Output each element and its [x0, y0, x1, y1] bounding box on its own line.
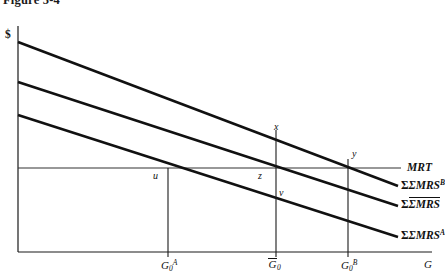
xtick-g0-bar-base: G — [268, 258, 277, 270]
point-label-v: v — [279, 187, 283, 198]
curve-label-a-sup: A — [440, 228, 445, 237]
x-axis-label: G — [424, 258, 432, 270]
sigma-symbol-a: Σ — [401, 229, 409, 241]
curve-label-sigma-mrs-bar: ΣΣMRS — [401, 197, 440, 210]
xtick-g0-a-sup: A — [173, 258, 178, 267]
curve-label-b-text: ΣMRS — [409, 179, 440, 191]
curve-label-sigma-mrs-b: ΣΣMRSB — [401, 178, 445, 191]
xtick-label-g0-bar: G0 — [268, 258, 281, 272]
curve-sigma-mrs-a — [18, 115, 398, 237]
xtick-g0-b-sup: B — [353, 258, 358, 267]
figure-container: Figure 5-4 $ G G0A G0 G0B — [0, 0, 445, 276]
curve-label-mrt: MRT — [407, 161, 432, 173]
xtick-g0-bar-sub: 0 — [277, 263, 281, 272]
point-label-z: z — [258, 170, 262, 181]
xtick-g0-b-base: G — [341, 259, 349, 271]
point-label-y: y — [352, 148, 356, 159]
xtick-label-g0-a: G0A — [161, 258, 177, 273]
curve-label-sigma-mrs-a: ΣΣMRSA — [401, 228, 445, 241]
sigma-symbol-b: Σ — [401, 179, 409, 191]
point-label-x: x — [274, 121, 278, 132]
figure-plot-area — [0, 0, 445, 276]
y-axis-label: $ — [5, 28, 11, 40]
sigma-symbol-bar: Σ — [401, 198, 409, 210]
curve-label-bar-text: ΣMRS — [409, 197, 440, 210]
xtick-label-g0-b: G0B — [341, 258, 357, 273]
curve-label-b-sup: B — [440, 178, 445, 187]
curve-sigma-mrs-b — [18, 42, 398, 186]
curve-sigma-mrs-bar — [18, 82, 398, 206]
xtick-g0-a-base: G — [161, 259, 169, 271]
curve-label-a-text: ΣMRS — [409, 229, 440, 241]
point-label-u: u — [153, 170, 158, 181]
